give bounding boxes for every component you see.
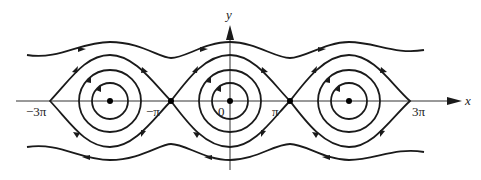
arrow-icon [141,130,146,137]
tick-label-minus-3pi: −3π [26,105,46,118]
arrow-icon [73,132,80,138]
x-axis [16,97,462,105]
arrow-icon [380,67,387,73]
phase-portrait-svg [0,0,481,180]
saddle-point [287,98,293,104]
arrow-icon [72,66,78,73]
x-axis-label: x [465,94,471,107]
y-axis-label: y [226,8,232,21]
tick-label-3pi: 3π [412,105,425,118]
phase-portrait: −3π −π 0 π 3π x y [0,0,481,180]
arrow-icon [261,67,268,73]
y-axis-arrow-icon [226,25,234,40]
tick-label-zero: 0 [218,105,225,118]
arrow-icon [311,66,317,73]
arrow-icon [193,132,200,138]
arrow-icon [192,66,198,73]
arrow-icon [312,132,319,138]
arrow-right-icon [78,47,86,52]
saddle-point [168,98,174,104]
center-point [346,98,352,104]
tick-label-minus-pi: −π [146,105,160,118]
center-point [107,98,113,104]
x-axis-arrow-icon [447,97,462,105]
arrow-icon [141,67,148,73]
y-axis [226,25,234,170]
center-point [227,98,233,104]
arrow-icon [261,130,266,137]
tick-label-pi: π [272,105,279,118]
arrow-icon [380,130,385,137]
